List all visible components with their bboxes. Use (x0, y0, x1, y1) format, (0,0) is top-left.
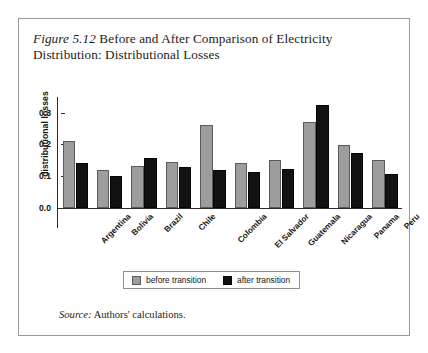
bar-group-chile (166, 97, 191, 208)
bar-group-colombia (200, 97, 225, 208)
y-axis-tick-labels: 0.30.20.10.0 (27, 19, 51, 337)
legend-label-after: after transition (237, 275, 290, 285)
bar-after-colombia (213, 170, 225, 208)
bar-group-guatemala (269, 97, 294, 208)
legend-label-before: before transition (146, 275, 206, 285)
figure-frame: Figure 5.12 Before and After Comparison … (18, 18, 410, 336)
x-label-brazil: Brazil (163, 212, 185, 234)
x-label-argentina: Argentina (99, 212, 132, 245)
x-label-el-salvador: El Salvador (273, 212, 311, 250)
bar-group-argentina (63, 97, 88, 208)
legend-item-after: after transition (223, 275, 290, 285)
bar-after-bolivia (110, 176, 122, 208)
bar-after-panama (351, 153, 363, 207)
bar-before-argentina (63, 141, 75, 208)
y-axis-tick-0: 0.3 (29, 108, 51, 118)
bar-group-panama (338, 97, 363, 208)
y-axis-tick-1: 0.2 (29, 139, 51, 149)
source-text: Authors' calculations. (92, 309, 186, 320)
bar-before-panama (338, 145, 350, 208)
bar-after-guatemala (282, 169, 294, 207)
x-axis-line (57, 208, 402, 209)
bar-group-nicaragua (303, 97, 328, 208)
chart-legend: before transition after transition (123, 271, 300, 289)
x-label-colombia: Colombia (236, 212, 269, 245)
x-label-chile: Chile (197, 212, 218, 233)
source-note: Source: Authors' calculations. (59, 309, 186, 320)
chart-plot: distributional losses 0.30.20.10.0 Argen… (19, 19, 411, 337)
x-label-panama: Panama (372, 212, 401, 241)
bar-before-nicaragua (303, 122, 315, 208)
bar-after-nicaragua (316, 105, 328, 208)
x-label-peru: Peru (402, 212, 421, 231)
bar-before-chile (166, 162, 178, 207)
bar-before-guatemala (269, 160, 281, 207)
bar-group-brazil (131, 97, 156, 208)
bar-before-bolivia (97, 170, 109, 207)
legend-swatch-before-icon (132, 276, 141, 285)
bar-before-brazil (131, 166, 143, 207)
bar-after-peru (385, 174, 397, 208)
legend-item-before: before transition (132, 275, 206, 285)
bar-before-peru (372, 160, 384, 208)
x-label-bolivia: Bolivia (130, 212, 155, 237)
bar-group-bolivia (97, 97, 122, 208)
bar-after-argentina (76, 163, 88, 208)
source-lead: Source: (59, 309, 92, 320)
bar-after-chile (179, 167, 191, 207)
bars-container (58, 97, 402, 208)
x-label-nicaragua: Nicaragua (340, 212, 374, 246)
y-axis-tick-2: 0.1 (29, 171, 51, 181)
x-label-guatemala: Guatemala (306, 212, 342, 248)
bar-group-el-salvador (235, 97, 260, 208)
y-axis-tick-3: 0.0 (29, 203, 51, 213)
bar-group-peru (372, 97, 397, 208)
bar-before-el-salvador (235, 163, 247, 208)
legend-swatch-after-icon (223, 276, 232, 285)
bar-after-el-salvador (248, 172, 260, 207)
bar-before-colombia (200, 125, 212, 208)
bar-after-brazil (144, 158, 156, 208)
